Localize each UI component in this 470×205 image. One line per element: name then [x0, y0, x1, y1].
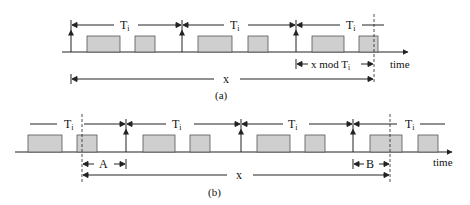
- job-block: [198, 36, 232, 52]
- total-label-a: x: [223, 72, 229, 86]
- job-block: [77, 135, 97, 152]
- job-block: [143, 135, 175, 152]
- job-block: [257, 135, 290, 152]
- job-block: [305, 135, 325, 152]
- job-block: [190, 135, 210, 152]
- period-label: Ti: [120, 18, 130, 33]
- caption-b: (b): [208, 186, 221, 199]
- job-block: [135, 36, 155, 52]
- execution-blocks-a: [87, 36, 378, 52]
- period-label: Ti: [64, 117, 74, 132]
- job-block: [28, 135, 62, 152]
- period-label: Ti: [230, 18, 240, 33]
- period-spans-a: [71, 20, 384, 30]
- time-axis-label-b: time: [433, 156, 453, 168]
- job-block: [418, 135, 438, 152]
- caption-a: (a): [215, 89, 228, 102]
- period-label: Ti: [172, 117, 182, 132]
- offset-b-label: B: [366, 157, 374, 171]
- timing-diagram: Ti Ti Ti x mod Ti time x (a): [0, 0, 470, 205]
- offset-a-label: A: [99, 157, 108, 171]
- job-block: [248, 36, 268, 52]
- job-block: [87, 36, 120, 52]
- execution-blocks-b: [28, 135, 438, 152]
- job-block: [312, 36, 344, 52]
- period-label: Ti: [288, 117, 298, 132]
- total-span-a: [71, 74, 373, 84]
- remainder-label: x mod Ti: [311, 58, 350, 72]
- diagram-a: Ti Ti Ti x mod Ti time x (a): [62, 14, 410, 102]
- period-label: Ti: [405, 117, 415, 132]
- diagram-b: Ti Ti Ti Ti A B time x (b): [15, 114, 453, 199]
- period-spans-b: [30, 119, 445, 129]
- total-label-b: x: [236, 168, 242, 182]
- time-axis-label-a: time: [390, 58, 410, 70]
- job-block: [370, 135, 402, 152]
- job-block: [359, 36, 378, 52]
- period-label: Ti: [346, 18, 356, 33]
